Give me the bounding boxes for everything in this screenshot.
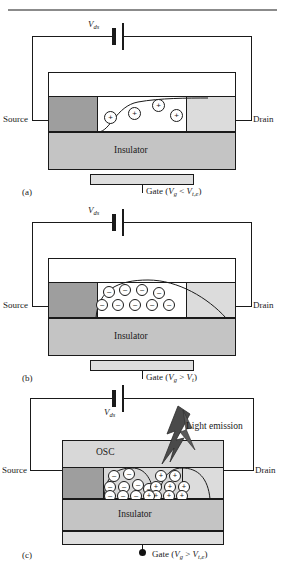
gate-lead-a xyxy=(142,185,143,193)
carrier-electron: – xyxy=(146,299,158,311)
circuit-lead-drain-c xyxy=(222,470,254,471)
carrier-hole: + xyxy=(128,107,141,120)
drain-label-b: Drain xyxy=(253,301,274,310)
source-label-c: Source xyxy=(2,466,27,475)
carrier-electron: – xyxy=(136,284,148,296)
circuit-wire-top-left-b xyxy=(32,222,112,223)
panel-letter-b: (b) xyxy=(22,373,33,383)
bias-label-c: Vds xyxy=(104,408,115,418)
carrier-hole: + xyxy=(170,109,183,122)
gate-contact-a xyxy=(90,174,194,185)
source-label-a: Source xyxy=(3,115,28,124)
carrier-electron: – xyxy=(153,287,165,299)
gate-terminal-dot-c xyxy=(139,549,146,556)
bias-label-b: Vds xyxy=(88,206,99,216)
gate-lead-b xyxy=(142,371,143,379)
circuit-wire-top-left-c xyxy=(30,398,112,399)
circuit-wire-top-left-a xyxy=(32,36,112,37)
carrier-electron: – xyxy=(103,286,115,298)
carrier-electron: – xyxy=(119,284,131,296)
light-emission-label-c: Light emission xyxy=(186,422,243,432)
carrier-electron: – xyxy=(163,299,175,311)
insulator-label-c: Insulator xyxy=(118,510,152,520)
source-label-b: Source xyxy=(3,301,28,310)
battery-short-plate-a xyxy=(112,28,116,45)
drain-label-a: Drain xyxy=(253,115,274,124)
circuit-lead-source-c xyxy=(30,470,62,471)
carrier-electron: – xyxy=(123,468,135,480)
battery-long-plate-b xyxy=(122,209,124,236)
circuit-wire-top-right-b xyxy=(122,222,252,223)
circuit-wire-right-b xyxy=(251,222,252,306)
carrier-electron: – xyxy=(112,299,124,311)
circuit-wire-left-b xyxy=(32,222,33,306)
running-head xyxy=(8,0,277,8)
carrier-hole: + xyxy=(104,111,117,124)
gate-contact-c xyxy=(62,531,224,545)
battery-long-plate-c xyxy=(122,385,124,412)
panel-c: Vds OSC Light emission – – – – xyxy=(0,386,285,568)
insulator-label-b: Insulator xyxy=(114,332,148,342)
battery-short-plate-b xyxy=(112,214,116,231)
circuit-wire-right-a xyxy=(251,36,252,120)
carrier-electron: – xyxy=(129,299,141,311)
figure-page: Vds + + + + Insulator Gate (Vg < Vt,e) xyxy=(0,0,285,568)
gate-contact-b xyxy=(90,360,194,371)
gate-label-c: Gate (Vg > Vt,e) xyxy=(152,550,207,560)
panel-a: Vds + + + + Insulator Gate (Vg < Vt,e) xyxy=(0,14,285,200)
header-rule xyxy=(8,9,277,11)
gate-label-b: Gate (Vg > Vt) xyxy=(146,373,197,383)
circuit-wire-right-c xyxy=(253,398,254,470)
insulator-label-a: Insulator xyxy=(114,146,148,156)
panel-letter-c: (c) xyxy=(22,550,32,560)
panel-b: Vds – – – – – – – – – Insulator Gat xyxy=(0,200,285,386)
circuit-wire-top-right-a xyxy=(122,36,252,37)
circuit-wire-top-right-c xyxy=(122,398,254,399)
drain-label-c: Drain xyxy=(255,466,276,475)
circuit-wire-left-c xyxy=(30,398,31,470)
circuit-wire-left-a xyxy=(32,36,33,120)
panel-letter-a: (a) xyxy=(22,187,32,197)
battery-short-plate-c xyxy=(112,390,116,407)
accumulation-curve-a xyxy=(48,72,236,134)
gate-label-a: Gate (Vg < Vt,e) xyxy=(146,187,201,197)
battery-long-plate-a xyxy=(122,23,124,50)
bias-label-a: Vds xyxy=(88,20,99,30)
carrier-electron: – xyxy=(96,299,108,311)
carrier-hole: + xyxy=(152,99,165,112)
